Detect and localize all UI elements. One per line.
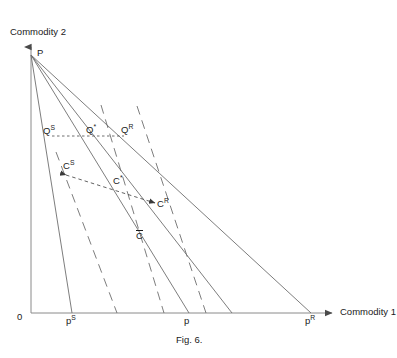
c-star-sup: * (120, 174, 123, 181)
q-s-sup: S (50, 124, 55, 131)
tick-p-base: p (184, 315, 189, 326)
tick-p-s-sup: S (71, 314, 76, 321)
point-label-c-bar: C (136, 231, 143, 241)
q-star-sup: * (93, 123, 96, 130)
figure-caption: Fig. 6. (176, 334, 202, 345)
frontier-p-s (31, 55, 72, 313)
tick-p-r-sup: R (310, 314, 315, 321)
q-r-sup: R (128, 123, 133, 130)
frontier-lines (31, 55, 311, 313)
x-axis-label: Commodity 1 (340, 307, 396, 317)
budget-dashed-mid (101, 105, 164, 313)
tick-label-p: p (184, 316, 189, 326)
apex-p-base: P (37, 47, 43, 58)
tick-label-p-r: pR (305, 316, 315, 326)
point-label-c-s: CS (63, 161, 74, 171)
c-r-sup: R (164, 197, 169, 204)
c-star-base: C (113, 175, 120, 186)
axis-group (31, 47, 332, 313)
c-connector-line (66, 175, 155, 203)
tick-label-p-s: pS (66, 316, 76, 326)
c-bar-base: C (136, 231, 143, 241)
c-connector-group (66, 175, 155, 203)
diagram-canvas (0, 0, 397, 358)
point-label-c-star: C* (113, 176, 123, 186)
frontier-p (31, 55, 189, 313)
frontier-p-r (31, 55, 311, 313)
c-s-sup: S (70, 159, 75, 166)
point-label-q-r: QR (121, 125, 133, 135)
origin-label: 0 (17, 312, 22, 322)
budget-dashed-right (137, 106, 206, 313)
c-s-base: C (63, 160, 70, 171)
budget-dashed-left (56, 152, 117, 313)
point-label-q-star: Q* (86, 125, 96, 135)
y-axis-label: Commodity 2 (10, 27, 66, 37)
figure-container: Commodity 2 Commodity 1 0 pS p pR P QS Q… (0, 0, 397, 358)
point-label-q-s: QS (43, 126, 55, 136)
c-r-base: C (157, 198, 164, 209)
frontier-through-qr (31, 55, 232, 313)
point-label-apex-p: P (37, 48, 43, 58)
point-label-c-r: CR (157, 199, 169, 209)
